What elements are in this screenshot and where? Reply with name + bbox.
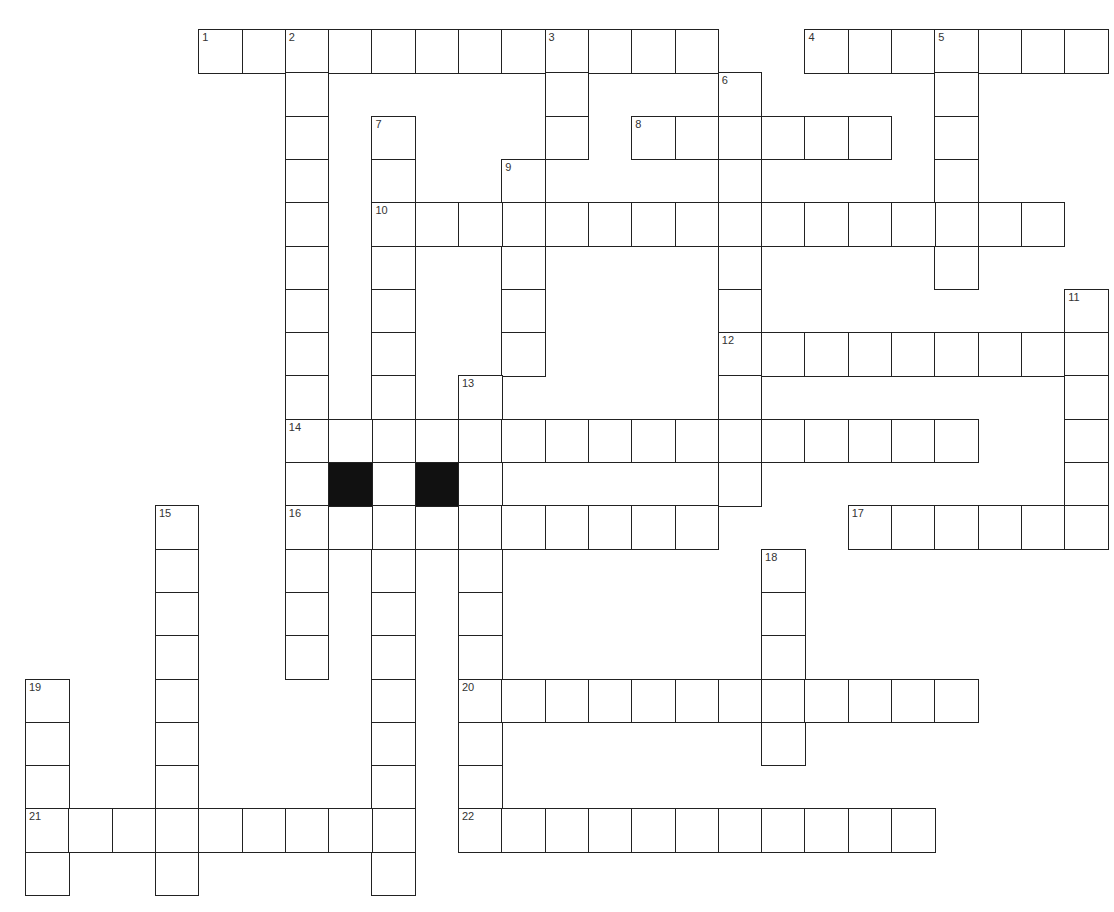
grid-cell[interactable]: 1	[198, 29, 243, 74]
grid-cell[interactable]	[285, 549, 330, 594]
grid-cell[interactable]	[545, 419, 590, 464]
grid-cell[interactable]	[285, 159, 330, 204]
grid-cell[interactable]: 15	[155, 505, 200, 550]
grid-cell[interactable]: 3	[545, 29, 590, 74]
grid-cell[interactable]	[371, 29, 416, 74]
grid-cell[interactable]	[371, 375, 416, 420]
grid-cell[interactable]	[458, 765, 503, 810]
grid-cell[interactable]	[371, 289, 416, 334]
grid-cell[interactable]: 12	[718, 332, 763, 377]
grid-cell[interactable]	[718, 462, 763, 507]
grid-cell[interactable]: 5	[934, 29, 979, 74]
grid-cell[interactable]	[155, 592, 200, 637]
grid-cell[interactable]	[501, 29, 546, 74]
grid-cell[interactable]: 13	[458, 375, 503, 420]
grid-cell[interactable]	[155, 722, 200, 767]
grid-cell[interactable]	[371, 462, 416, 507]
grid-cell[interactable]	[761, 592, 806, 637]
grid-cell[interactable]	[588, 808, 633, 853]
grid-cell[interactable]: 9	[501, 159, 546, 204]
grid-cell[interactable]	[285, 462, 330, 507]
grid-cell[interactable]	[934, 116, 979, 161]
grid-cell[interactable]	[371, 679, 416, 724]
grid-cell[interactable]	[978, 202, 1023, 247]
grid-cell[interactable]	[545, 679, 590, 724]
grid-cell[interactable]	[198, 808, 243, 853]
grid-cell[interactable]	[588, 679, 633, 724]
grid-cell[interactable]	[458, 505, 503, 550]
grid-cell[interactable]	[675, 202, 720, 247]
grid-cell[interactable]	[891, 202, 936, 247]
grid-cell[interactable]	[285, 808, 330, 853]
grid-cell[interactable]	[155, 765, 200, 810]
grid-cell[interactable]	[761, 635, 806, 680]
grid-cell[interactable]	[675, 116, 720, 161]
grid-cell[interactable]: 21	[25, 808, 70, 853]
grid-cell[interactable]	[112, 808, 157, 853]
grid-cell[interactable]	[718, 159, 763, 204]
grid-cell[interactable]: 7	[371, 116, 416, 161]
grid-cell[interactable]	[415, 419, 460, 464]
grid-cell[interactable]: 8	[631, 116, 676, 161]
grid-cell[interactable]	[458, 722, 503, 767]
grid-cell[interactable]	[545, 505, 590, 550]
grid-cell[interactable]	[458, 549, 503, 594]
grid-cell[interactable]	[545, 116, 590, 161]
grid-cell[interactable]: 14	[285, 419, 330, 464]
grid-cell[interactable]	[891, 505, 936, 550]
grid-cell[interactable]	[25, 765, 70, 810]
grid-cell[interactable]	[285, 592, 330, 637]
grid-cell[interactable]: 11	[1064, 289, 1109, 334]
grid-cell[interactable]	[804, 332, 849, 377]
grid-cell[interactable]	[1021, 505, 1066, 550]
grid-cell[interactable]	[718, 808, 763, 853]
grid-cell[interactable]	[718, 116, 763, 161]
grid-cell[interactable]	[978, 29, 1023, 74]
grid-cell[interactable]	[371, 159, 416, 204]
grid-cell[interactable]	[501, 289, 546, 334]
grid-cell[interactable]	[848, 332, 893, 377]
grid-cell[interactable]	[761, 202, 806, 247]
grid-cell[interactable]	[285, 246, 330, 291]
grid-cell[interactable]	[718, 679, 763, 724]
grid-cell[interactable]	[458, 202, 503, 247]
grid-cell[interactable]: 17	[848, 505, 893, 550]
grid-cell[interactable]	[718, 289, 763, 334]
grid-cell[interactable]	[934, 202, 979, 247]
grid-cell[interactable]	[285, 289, 330, 334]
grid-cell[interactable]	[371, 852, 416, 897]
grid-cell[interactable]	[1064, 419, 1109, 464]
grid-cell[interactable]	[631, 202, 676, 247]
grid-cell[interactable]: 6	[718, 72, 763, 117]
grid-cell[interactable]	[891, 332, 936, 377]
grid-cell[interactable]	[1064, 462, 1109, 507]
grid-cell[interactable]: 4	[804, 29, 849, 74]
grid-cell[interactable]	[458, 462, 503, 507]
grid-cell[interactable]	[631, 505, 676, 550]
grid-cell[interactable]	[804, 202, 849, 247]
grid-cell[interactable]	[804, 419, 849, 464]
grid-cell[interactable]	[718, 419, 763, 464]
grid-cell[interactable]	[371, 722, 416, 767]
grid-cell[interactable]	[285, 202, 330, 247]
grid-cell[interactable]	[328, 505, 373, 550]
grid-cell[interactable]	[1064, 332, 1109, 377]
grid-cell[interactable]	[242, 808, 287, 853]
grid-cell[interactable]	[848, 808, 893, 853]
grid-cell[interactable]	[588, 202, 633, 247]
grid-cell[interactable]	[718, 202, 763, 247]
grid-cell[interactable]	[848, 29, 893, 74]
grid-cell[interactable]	[891, 679, 936, 724]
grid-cell[interactable]	[371, 635, 416, 680]
grid-cell[interactable]	[285, 375, 330, 420]
grid-cell[interactable]	[545, 202, 590, 247]
grid-cell[interactable]	[588, 29, 633, 74]
grid-cell[interactable]	[588, 505, 633, 550]
grid-cell[interactable]	[501, 202, 546, 247]
grid-cell[interactable]: 2	[285, 29, 330, 74]
grid-cell[interactable]	[718, 375, 763, 420]
grid-cell[interactable]	[848, 116, 893, 161]
grid-cell[interactable]	[371, 419, 416, 464]
grid-cell[interactable]	[371, 592, 416, 637]
grid-cell[interactable]	[761, 808, 806, 853]
